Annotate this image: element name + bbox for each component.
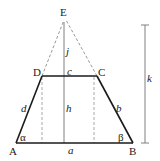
trapezoid-diagram: E D C A B a b c d j h k α β xyxy=(0,0,160,161)
angle-label-alpha: α xyxy=(20,131,26,143)
vertex-label-D: D xyxy=(33,66,41,78)
diagram-canvas: E D C A B a b c d j h k α β xyxy=(0,0,160,161)
height-label-k: k xyxy=(147,72,153,84)
vertex-label-A: A xyxy=(9,145,17,157)
side-label-a: a xyxy=(68,144,74,156)
vertex-label-E: E xyxy=(60,6,67,18)
height-label-h: h xyxy=(66,102,72,114)
side-label-c: c xyxy=(67,65,72,77)
side-label-d: d xyxy=(21,102,27,114)
vertex-label-B: B xyxy=(129,145,136,157)
vertex-label-C: C xyxy=(98,66,105,78)
side-label-b: b xyxy=(116,102,122,114)
side-b-BC xyxy=(97,76,133,143)
height-label-j: j xyxy=(64,45,69,57)
dashed-line-D-E xyxy=(42,20,64,76)
angle-label-beta: β xyxy=(118,131,124,143)
